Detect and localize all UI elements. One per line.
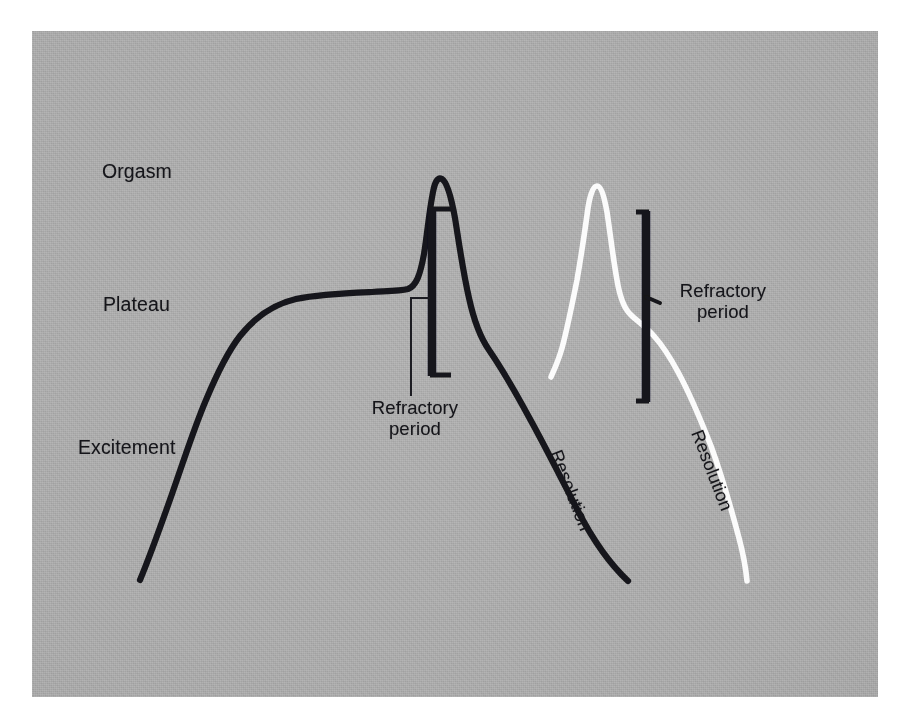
refractory-period-label-left: Refractory period (341, 398, 489, 439)
figure-root: Orgasm Plateau Excitement Refractory per… (0, 0, 910, 720)
paper-grain-texture (32, 31, 878, 697)
phase-label-plateau: Plateau (103, 294, 170, 316)
phase-label-orgasm: Orgasm (102, 161, 172, 183)
chart-panel (32, 31, 878, 697)
refractory-period-label-right: Refractory period (668, 281, 778, 322)
phase-label-excitement: Excitement (78, 437, 175, 459)
panel-vignette (32, 31, 878, 697)
